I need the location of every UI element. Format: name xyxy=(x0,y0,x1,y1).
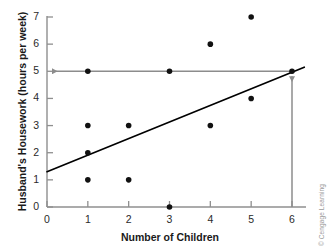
regression-line xyxy=(47,67,304,171)
copyright-credit: © Cengage Learning xyxy=(317,140,327,246)
data-point xyxy=(208,123,214,129)
scatter-plot-figure: Husband's Housework (hours per week) Num… xyxy=(0,0,327,250)
data-point xyxy=(289,68,295,74)
data-point xyxy=(85,68,91,74)
data-point xyxy=(208,41,214,47)
data-point xyxy=(167,68,173,74)
data-point xyxy=(85,150,91,156)
data-points xyxy=(85,14,295,210)
regression-line-path xyxy=(47,67,304,171)
plot-canvas xyxy=(0,0,327,250)
data-point xyxy=(248,14,254,20)
data-point xyxy=(167,204,173,210)
annotation-guides xyxy=(52,71,292,207)
data-point xyxy=(126,123,132,129)
data-point xyxy=(85,177,91,183)
data-point xyxy=(248,96,254,102)
data-point xyxy=(85,123,91,129)
data-point xyxy=(126,177,132,183)
